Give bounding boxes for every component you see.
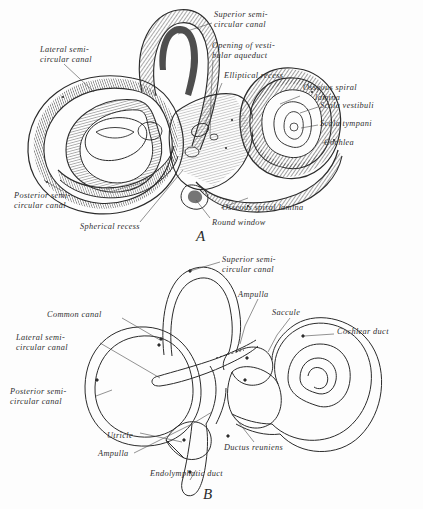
label-b-cochlear-duct: Cochlear duct bbox=[337, 327, 389, 337]
label-a-posterior-semicircular-canal: Posterior semi- circular canal bbox=[14, 191, 71, 210]
label-b-utricle: Utricle bbox=[107, 431, 133, 441]
label-a-superior-semicircular-canal: Superior semi- circular canal bbox=[214, 10, 268, 29]
labyrinth-illustration bbox=[0, 0, 423, 509]
label-a-osseous-spiral-lamina-bottom: Osseous spiral lamina bbox=[222, 203, 304, 213]
label-a-scala-vestibuli: Scala vestibuli bbox=[320, 101, 374, 111]
label-a-elliptical-recess: Elliptical recess bbox=[224, 71, 283, 81]
label-a-opening-of-vestibular-aqueduct: Opening of vesti- bular aqueduct bbox=[212, 41, 275, 60]
label-a-spherical-recess: Spherical recess bbox=[80, 222, 140, 232]
anatomical-plate: Superior semi- circular canal Opening of… bbox=[0, 0, 423, 509]
b-cochlear-duct-shape bbox=[272, 318, 382, 452]
label-b-superior-semicircular-canal: Superior semi- circular canal bbox=[222, 255, 276, 274]
label-a-osseous-spiral-lamina-top: Osseous spiral lamina bbox=[303, 83, 357, 102]
figure-b-membranous-labyrinth bbox=[85, 267, 382, 496]
b-superior-semicircular-duct bbox=[160, 267, 241, 356]
label-b-lateral-semicircular-canal: Lateral semi- circular canal bbox=[16, 333, 68, 352]
label-b-ampulla-lower: Ampulla bbox=[98, 449, 129, 459]
label-a-cochlea: Cochlea bbox=[324, 138, 354, 148]
label-b-saccule: Saccule bbox=[272, 308, 300, 318]
figure-caption-b: B bbox=[203, 486, 213, 503]
label-b-ampulla-upper: Ampulla bbox=[238, 290, 269, 300]
label-b-endolymphatic-duct: Endolymphatic duct bbox=[150, 469, 223, 479]
figure-caption-a: A bbox=[196, 228, 206, 245]
figure-a-osseous-labyrinth bbox=[28, 10, 342, 214]
label-a-lateral-semicircular-canal: Lateral semi- circular canal bbox=[40, 45, 92, 64]
label-a-scala-tympani: Scala tympani bbox=[320, 119, 372, 129]
label-b-posterior-semicircular-canal: Posterior semi- circular canal bbox=[10, 387, 67, 406]
label-a-round-window: Round window bbox=[212, 218, 266, 228]
label-b-ductus-reuniens: Ductus reuniens bbox=[224, 443, 283, 453]
b-utricle-and-ampullae bbox=[152, 340, 273, 460]
label-b-common-canal: Common canal bbox=[47, 310, 102, 320]
